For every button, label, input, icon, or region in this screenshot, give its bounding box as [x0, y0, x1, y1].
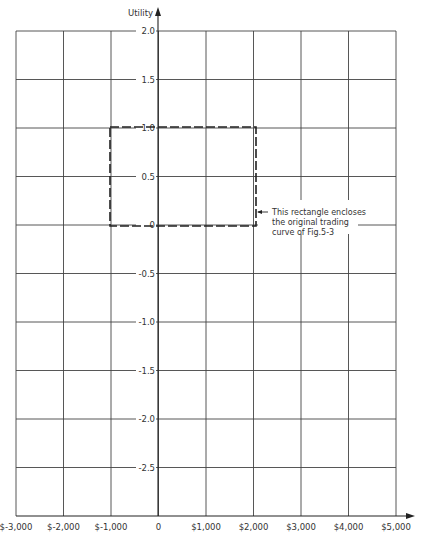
annotation-line-1: This rectangle encloses: [271, 208, 366, 217]
y-tick-label: -1.5: [138, 366, 155, 376]
y-tick-label: 2.0: [141, 26, 155, 36]
y-tick-label: 1.5: [141, 75, 155, 85]
y-tick-label: 1.0: [141, 123, 155, 133]
annotation-line-3: curve of Fig.5-3: [272, 228, 334, 237]
y-tick-labels: 2.01.51.00.50-0.5-1.0-1.5-2.0-2.5: [136, 25, 156, 473]
x-tick-label: $3,000: [286, 522, 316, 532]
y-tick-label: 0.5: [141, 172, 155, 182]
y-tick-label: -2.5: [138, 463, 155, 473]
x-tick-labels: $-3,000$-2,000$-1,0000$1,000$2,000$3,000…: [0, 522, 411, 532]
utility-chart: Utility 2.01.51.00.50-0.5-1.0-1.5-2.0-2.…: [0, 0, 423, 536]
y-tick-label: -1.0: [138, 317, 155, 327]
y-tick-label: -0.5: [138, 269, 155, 279]
y-tick-label: 0: [150, 220, 155, 230]
y-tick-label: -2.0: [138, 414, 155, 424]
x-tick-label: $1,000: [191, 522, 221, 532]
x-tick-label: 0: [156, 522, 161, 532]
x-tick-label: $-2,000: [47, 522, 80, 532]
x-tick-label: $-1,000: [95, 522, 128, 532]
y-axis-arrow-icon: [155, 7, 161, 16]
grid-lines: [16, 31, 396, 516]
x-tick-label: $2,000: [239, 522, 269, 532]
y-axis-label: Utility: [128, 8, 153, 18]
x-tick-label: $-3,000: [0, 522, 32, 532]
annotation-line-2: the original trading: [272, 218, 349, 227]
x-tick-label: $4,000: [334, 522, 364, 532]
x-axis-arrow-icon: [406, 513, 415, 519]
x-tick-label: $5,000: [381, 522, 411, 532]
